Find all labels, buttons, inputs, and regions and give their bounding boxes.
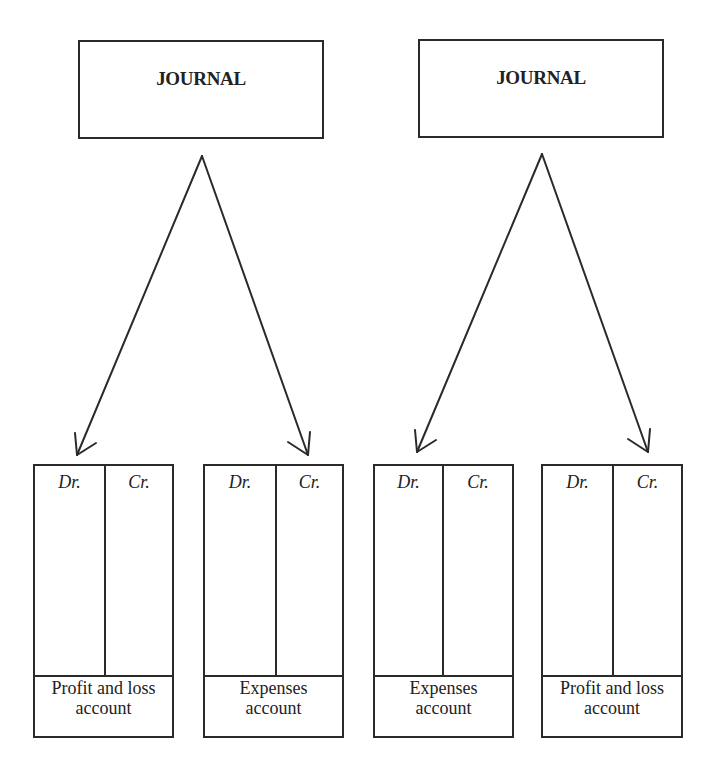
credit-label: Cr. (444, 472, 512, 493)
credit-label: Cr. (277, 472, 342, 493)
arrow-to-expenses-left (202, 156, 310, 455)
ledger-profit-and-loss-right: Dr. Cr. Profit and loss account (541, 464, 683, 738)
credit-side: Cr. (106, 466, 172, 675)
journal-box-left: JOURNAL (78, 40, 324, 139)
arrow-to-expenses-right (415, 154, 542, 452)
debit-side: Dr. (205, 466, 277, 675)
journal-title-right: JOURNAL (420, 67, 662, 89)
credit-label: Cr. (614, 472, 681, 493)
arrow-to-profit-and-loss-right (542, 154, 650, 452)
journal-box-right: JOURNAL (418, 39, 664, 138)
debit-label: Dr. (375, 472, 442, 493)
account-name-line2: account (543, 698, 681, 718)
credit-side: Cr. (614, 466, 681, 675)
account-name: Profit and loss account (35, 675, 172, 736)
ledger-profit-and-loss-left: Dr. Cr. Profit and loss account (33, 464, 174, 738)
account-name-line1: Expenses (375, 678, 512, 698)
account-name-line2: account (205, 698, 342, 718)
debit-label: Dr. (543, 472, 612, 493)
account-name: Profit and loss account (543, 675, 681, 736)
credit-side: Cr. (277, 466, 342, 675)
journal-title-left: JOURNAL (80, 68, 322, 90)
account-name: Expenses account (205, 675, 342, 736)
ledger-expenses-left: Dr. Cr. Expenses account (203, 464, 344, 738)
credit-side: Cr. (444, 466, 512, 675)
ledger-expenses-right: Dr. Cr. Expenses account (373, 464, 514, 738)
account-name-line1: Profit and loss (543, 678, 681, 698)
account-name-line2: account (35, 698, 172, 718)
credit-label: Cr. (106, 472, 172, 493)
debit-label: Dr. (205, 472, 275, 493)
debit-side: Dr. (543, 466, 614, 675)
debit-side: Dr. (35, 466, 106, 675)
account-name-line1: Expenses (205, 678, 342, 698)
account-name-line1: Profit and loss (35, 678, 172, 698)
debit-label: Dr. (35, 472, 104, 493)
account-name-line2: account (375, 698, 512, 718)
arrow-to-profit-and-loss-left (75, 156, 202, 455)
debit-side: Dr. (375, 466, 444, 675)
account-name: Expenses account (375, 675, 512, 736)
